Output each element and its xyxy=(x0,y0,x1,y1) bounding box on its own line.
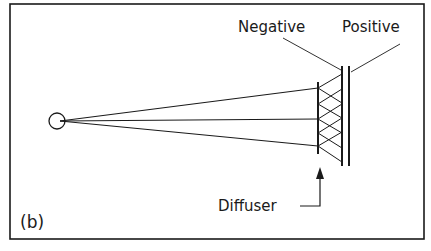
diffuser-label: Diffuser xyxy=(218,197,278,215)
negative-label: Negative xyxy=(238,18,305,36)
ray-upper xyxy=(60,88,318,121)
negative-leader-line xyxy=(283,38,341,70)
positive-label: Positive xyxy=(342,18,400,36)
diagram-canvas: Negative Positive Diffuser (b) xyxy=(0,0,431,251)
ray-lower xyxy=(60,121,318,146)
light-rays xyxy=(60,88,318,146)
positive-leader-line xyxy=(351,44,400,72)
figure-frame xyxy=(10,4,424,239)
diffuser-arrow-shaft xyxy=(300,176,320,206)
panel-label: (b) xyxy=(20,212,44,232)
arrow-up-icon xyxy=(316,167,324,179)
ray-middle xyxy=(60,119,318,121)
diffused-light-crosshatch xyxy=(318,74,342,162)
